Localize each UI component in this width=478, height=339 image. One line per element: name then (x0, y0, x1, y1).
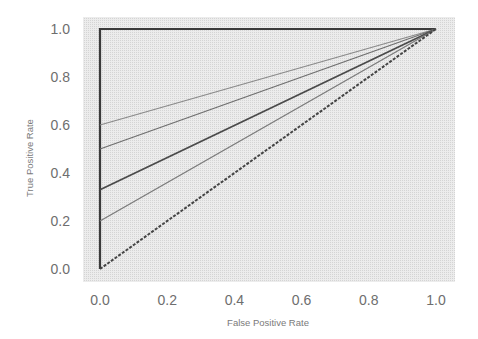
x-tick-label: 0.2 (157, 292, 177, 308)
x-tick-label: 0.6 (292, 292, 312, 308)
y-tick-label: 0.8 (51, 69, 71, 85)
y-tick-label: 0.4 (51, 165, 71, 181)
y-axis-label: True Positive Rate (24, 119, 35, 197)
x-tick-label: 1.0 (426, 292, 446, 308)
y-tick-label: 0.6 (51, 117, 71, 133)
roc-chart: 0.00.20.40.60.81.0 0.00.20.40.60.81.0 Fa… (0, 0, 478, 339)
x-axis-ticks: 0.00.20.40.60.81.0 (90, 292, 446, 308)
x-tick-label: 0.0 (90, 292, 110, 308)
y-tick-label: 1.0 (51, 21, 71, 37)
x-axis-label: False Positive Rate (227, 317, 309, 328)
x-tick-label: 0.8 (359, 292, 379, 308)
x-tick-label: 0.4 (225, 292, 245, 308)
y-tick-label: 0.0 (51, 261, 71, 277)
y-tick-label: 0.2 (51, 213, 71, 229)
y-axis-ticks: 0.00.20.40.60.81.0 (51, 21, 71, 277)
